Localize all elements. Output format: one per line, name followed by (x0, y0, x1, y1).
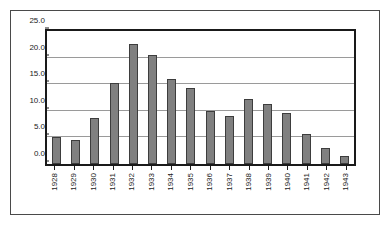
x-axis-tick-mark (151, 166, 152, 170)
x-axis-tick: 1943 (337, 166, 356, 226)
x-axis-tick: 1942 (317, 166, 336, 226)
x-axis-tick: 1935 (181, 166, 200, 226)
x-axis-tick-mark (229, 166, 230, 170)
y-axis: 0.05.010.015.020.025.0 (45, 29, 356, 162)
x-axis-tick-mark (210, 166, 211, 170)
x-axis-tick-mark (268, 166, 269, 170)
x-axis-tick: 1932 (123, 166, 142, 226)
y-axis-tick-mark (45, 161, 49, 162)
x-axis-tick-label: 1942 (323, 173, 331, 191)
y-axis-tick-label: 5.0 (34, 123, 45, 131)
x-axis-tick-label: 1933 (148, 173, 156, 191)
x-axis-tick-label: 1930 (90, 173, 98, 191)
chart-frame: 0.05.010.015.020.025.0 19281929193019311… (10, 10, 380, 215)
x-axis-tick-mark (190, 166, 191, 170)
plot-wrapper: 0.05.010.015.020.025.0 19281929193019311… (45, 29, 356, 187)
x-axis-tick: 1936 (201, 166, 220, 226)
x-axis-tick-mark (346, 166, 347, 170)
y-axis-tick-label: 15.0 (29, 70, 45, 78)
x-axis-tick-mark (249, 166, 250, 170)
x-axis-tick-label: 1936 (206, 173, 214, 191)
y-axis-tick-mark (45, 81, 49, 82)
x-axis-tick: 1929 (64, 166, 83, 226)
x-axis-tick-mark (171, 166, 172, 170)
y-axis-tick-label: 0.0 (34, 150, 45, 158)
x-axis-tick-label: 1943 (342, 173, 350, 191)
x-axis-tick-label: 1940 (284, 173, 292, 191)
y-axis-tick-mark (45, 54, 49, 55)
x-axis-tick: 1941 (298, 166, 317, 226)
x-axis-tick-label: 1928 (51, 173, 59, 191)
x-axis-tick-mark (74, 166, 75, 170)
x-axis-tick-label: 1929 (70, 173, 78, 191)
y-axis-tick-mark (45, 134, 49, 135)
x-axis-tick-label: 1939 (265, 173, 273, 191)
x-axis-tick-label: 1931 (109, 173, 117, 191)
x-axis-tick-label: 1934 (167, 173, 175, 191)
x-axis-tick-label: 1937 (226, 173, 234, 191)
y-axis-tick-label: 25.0 (29, 17, 45, 25)
x-axis-tick-label: 1941 (303, 173, 311, 191)
x-axis-tick: 1937 (220, 166, 239, 226)
x-axis-tick-label: 1935 (187, 173, 195, 191)
x-axis-tick-mark (54, 166, 55, 170)
y-axis-tick-mark (45, 107, 49, 108)
x-axis-tick-mark (287, 166, 288, 170)
y-axis-tick-mark (45, 28, 49, 29)
x-axis-tick-mark (307, 166, 308, 170)
y-axis-tick-label: 10.0 (29, 97, 45, 105)
y-axis-tick-label: 20.0 (29, 44, 45, 52)
x-axis-tick: 1930 (84, 166, 103, 226)
x-axis-tick: 1938 (239, 166, 258, 226)
x-axis-tick: 1939 (259, 166, 278, 226)
x-axis-tick: 1928 (45, 166, 64, 226)
x-axis-tick-mark (93, 166, 94, 170)
x-axis-tick-label: 1932 (128, 173, 136, 191)
x-axis-tick: 1934 (162, 166, 181, 226)
x-axis-tick-mark (113, 166, 114, 170)
x-axis-tick: 1940 (278, 166, 297, 226)
x-axis-tick: 1933 (142, 166, 161, 226)
x-axis-tick-label: 1938 (245, 173, 253, 191)
x-axis-tick-mark (132, 166, 133, 170)
x-axis-tick-mark (326, 166, 327, 170)
x-axis-tick: 1931 (103, 166, 122, 226)
x-axis: 1928192919301931193219331934193519361937… (45, 166, 356, 226)
